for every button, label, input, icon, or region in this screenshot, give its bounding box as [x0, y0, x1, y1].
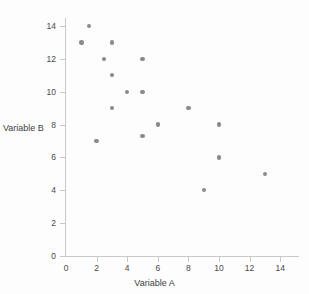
x-tick-label: 6 [148, 264, 168, 273]
y-tick-label: 10 [32, 88, 56, 97]
scatter-chart: 02468101214 02468101214 Variable B Varia… [0, 0, 309, 294]
x-tick-label: 12 [240, 264, 260, 273]
data-point [217, 122, 221, 126]
y-tick-label: 0 [32, 252, 56, 261]
x-tick-mark [219, 257, 220, 262]
x-axis-title: Variable A [0, 278, 309, 288]
x-tick-label: 0 [56, 264, 76, 273]
x-tick-label: 2 [87, 264, 107, 273]
x-tick-label: 4 [117, 264, 137, 273]
x-tick-label: 14 [270, 264, 290, 273]
y-tick-mark [60, 256, 66, 257]
data-point [217, 155, 221, 159]
y-tick-label: 2 [32, 219, 56, 228]
y-tick-label: 4 [32, 186, 56, 195]
data-point [140, 57, 144, 61]
x-tick-mark [188, 257, 189, 262]
data-point [140, 134, 144, 138]
plot-area [66, 20, 286, 256]
data-point [94, 139, 98, 143]
data-point [140, 90, 144, 94]
data-point [110, 40, 114, 44]
data-point [79, 40, 83, 44]
x-tick-mark [127, 257, 128, 262]
x-tick-mark [250, 257, 251, 262]
y-tick-label: 6 [32, 153, 56, 162]
data-point [156, 122, 160, 126]
data-point [186, 106, 190, 110]
y-axis-title: Variable B [3, 123, 44, 133]
x-tick-mark [158, 257, 159, 262]
x-tick-mark [97, 257, 98, 262]
x-axis-line [65, 256, 299, 257]
x-tick-label: 8 [178, 264, 198, 273]
data-point [263, 172, 267, 176]
y-tick-label: 12 [32, 55, 56, 64]
y-tick-label: 14 [32, 22, 56, 31]
x-tick-label: 10 [209, 264, 229, 273]
x-tick-mark [280, 257, 281, 262]
